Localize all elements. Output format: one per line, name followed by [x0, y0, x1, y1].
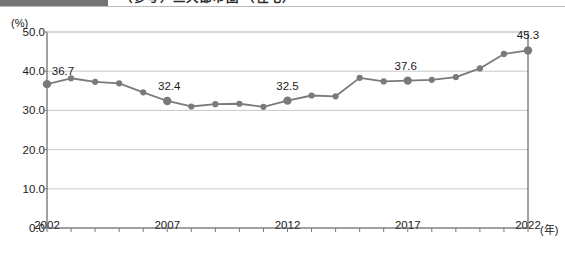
data-point[interactable] — [92, 79, 98, 85]
data-point-highlighted[interactable] — [163, 97, 171, 105]
data-point[interactable] — [116, 80, 122, 86]
data-point-label: 32.4 — [158, 80, 180, 92]
data-point[interactable] — [333, 93, 339, 99]
data-point-label: 32.5 — [276, 80, 298, 92]
data-point[interactable] — [188, 103, 194, 109]
data-point-highlighted[interactable] — [524, 46, 532, 54]
data-point[interactable] — [308, 92, 314, 98]
data-point[interactable] — [357, 75, 363, 81]
data-point[interactable] — [501, 51, 507, 57]
data-point[interactable] — [429, 77, 435, 83]
data-point-highlighted[interactable] — [43, 80, 51, 88]
plot-canvas — [0, 7, 565, 257]
data-point[interactable] — [453, 74, 459, 80]
data-point[interactable] — [381, 78, 387, 84]
data-point[interactable] — [236, 101, 242, 107]
data-point[interactable] — [477, 65, 483, 71]
page-header: （参考）三大都市圏 （住宅） — [0, 0, 565, 7]
line-chart: (%) 50.040.030.020.010.00.0 200220072012… — [0, 7, 565, 257]
data-point-label: 36.7 — [52, 65, 74, 77]
data-point-highlighted[interactable] — [404, 76, 412, 84]
data-point[interactable] — [212, 101, 218, 107]
data-point-highlighted[interactable] — [283, 96, 291, 104]
data-point-label: 37.6 — [395, 60, 417, 72]
data-point-label: 45.3 — [517, 29, 539, 41]
data-point[interactable] — [140, 89, 146, 95]
data-point[interactable] — [260, 104, 266, 110]
chart-page: （参考）三大都市圏 （住宅） (%) 50.040.030.020.010.00… — [0, 0, 565, 257]
